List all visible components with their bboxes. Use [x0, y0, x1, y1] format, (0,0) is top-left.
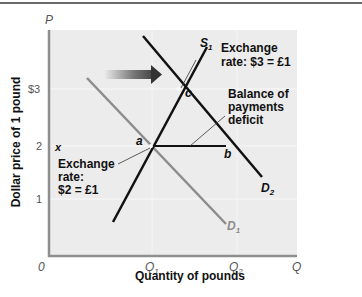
- point-a-marker: [149, 144, 153, 148]
- point-x-label: x: [54, 141, 62, 153]
- chart: P Q 0 $3 2 1 Q1 Q2 x a b c S1 D2 D1 Exch…: [0, 0, 362, 297]
- y-axis-title: Dollar price of 1 pound: [9, 62, 23, 222]
- point-a-label: a: [136, 134, 143, 148]
- y-tick-2: 2: [36, 140, 42, 152]
- annotation-exchange-rate-3: Exchange rate: $3 = £1: [221, 41, 291, 69]
- origin-label: 0: [38, 260, 45, 274]
- q-axis-symbol: Q: [292, 260, 301, 274]
- y-tick-1: 1: [36, 193, 42, 205]
- p-axis-symbol: P: [45, 13, 53, 27]
- point-c-label: c: [185, 86, 192, 100]
- point-b-label: b: [224, 147, 231, 161]
- x-axis-title: Quantity of pounds: [120, 269, 260, 283]
- y-tick-3: $3: [28, 83, 40, 95]
- point-c-marker: [177, 87, 181, 91]
